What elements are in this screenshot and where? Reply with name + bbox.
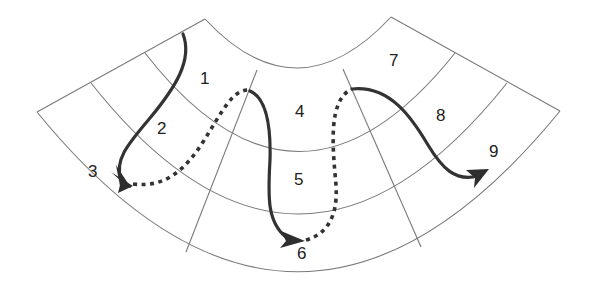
- inner-arc: [205, 17, 391, 68]
- left-edge: [37, 19, 205, 112]
- path-segment-1-to-3: [119, 34, 186, 180]
- cell-label-5: 5: [294, 171, 303, 188]
- fan-grid-diagram: 1 2 3 4 5 6 7 8 9: [0, 0, 593, 289]
- path-segment-4-to-6: [250, 91, 290, 240]
- path-segment-6-to-7: [306, 89, 352, 240]
- cell-label-7: 7: [389, 52, 398, 69]
- cell-label-3: 3: [88, 163, 97, 180]
- cell-label-2: 2: [157, 120, 166, 137]
- right-edge: [391, 17, 560, 111]
- cell-label-4: 4: [295, 103, 304, 120]
- cell-label-6: 6: [297, 245, 306, 262]
- cell-label-9: 9: [489, 143, 498, 160]
- cell-label-1: 1: [200, 70, 209, 87]
- left-radial-divider: [186, 70, 257, 252]
- cell-label-8: 8: [436, 107, 445, 124]
